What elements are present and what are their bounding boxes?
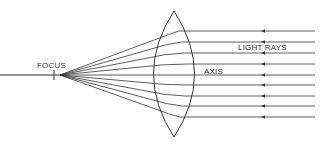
arrow-left-icon bbox=[261, 29, 265, 33]
lens-diagram: FOCUS LIGHT RAYS AXIS bbox=[0, 0, 323, 144]
light-ray bbox=[60, 75, 315, 106]
light-ray bbox=[60, 64, 315, 75]
arrow-left-icon bbox=[261, 73, 265, 77]
light-ray bbox=[60, 75, 315, 85]
light-rays-label: LIGHT RAYS bbox=[238, 43, 287, 52]
lens-ray-drawing bbox=[0, 0, 323, 144]
arrow-left-icon bbox=[261, 115, 265, 119]
arrow-left-icon bbox=[261, 94, 265, 98]
axis-label: AXIS bbox=[204, 67, 223, 76]
arrow-left-icon bbox=[261, 62, 265, 66]
focus-label: FOCUS bbox=[37, 61, 66, 70]
arrow-left-icon bbox=[261, 104, 265, 108]
convex-lens bbox=[154, 11, 195, 137]
arrow-left-icon bbox=[261, 83, 265, 87]
